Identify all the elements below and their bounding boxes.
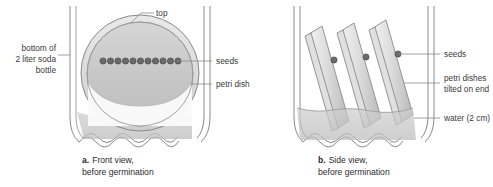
label-dishes-line2: tilted on end: [444, 84, 490, 94]
water-fill-b: [297, 108, 416, 140]
label-dishes-line1: petri dishes: [444, 73, 486, 83]
seed: [137, 58, 143, 64]
label-top: top: [156, 8, 168, 18]
seed-row-front: [100, 58, 181, 64]
panel-a-front-view: top bottom of 2 liter soda bottle seeds …: [15, 6, 250, 177]
bottle-wall-outer-right: [201, 6, 210, 142]
bottle-wall-outer-left: [70, 6, 79, 142]
bottle-interior-b: [297, 20, 416, 140]
panel-b-side-view: seeds petri dishes tilted on end water (…: [294, 6, 490, 177]
label-seeds-b: seeds: [444, 49, 466, 59]
seed: [331, 57, 337, 63]
seed: [130, 58, 136, 64]
germination-diagram: top bottom of 2 liter soda bottle seeds …: [0, 0, 493, 187]
label-water: water (2 cm): [443, 113, 490, 123]
seed: [363, 54, 369, 60]
seed: [145, 58, 151, 64]
seed: [167, 58, 173, 64]
caption-b-line2: before germination: [318, 167, 390, 177]
caption-a-line1: Front view,: [92, 155, 134, 165]
seed: [122, 58, 128, 64]
diagram-canvas: top bottom of 2 liter soda bottle seeds …: [0, 0, 493, 187]
seed: [107, 58, 113, 64]
label-petri-dish: petri dish: [216, 79, 250, 89]
label-bottle-line2: 2 liter soda: [15, 54, 56, 64]
seed: [160, 58, 166, 64]
label-bottle-line3: bottle: [36, 65, 57, 75]
caption-b: b.Side view,: [318, 155, 367, 165]
petri-dish-front: [81, 15, 199, 131]
caption-b-letter: b.: [318, 155, 326, 165]
seed: [100, 58, 106, 64]
seed: [152, 58, 158, 64]
caption-a: a.Front view,: [82, 155, 134, 165]
caption-a-letter: a.: [82, 155, 89, 165]
caption-a-line2: before germination: [82, 167, 154, 177]
label-bottle-line1: bottom of: [21, 43, 56, 53]
label-seeds-a: seeds: [216, 56, 238, 66]
bottle-wall-outer-right-b: [425, 6, 434, 142]
seed: [115, 58, 121, 64]
caption-b-line1: Side view,: [329, 155, 368, 165]
